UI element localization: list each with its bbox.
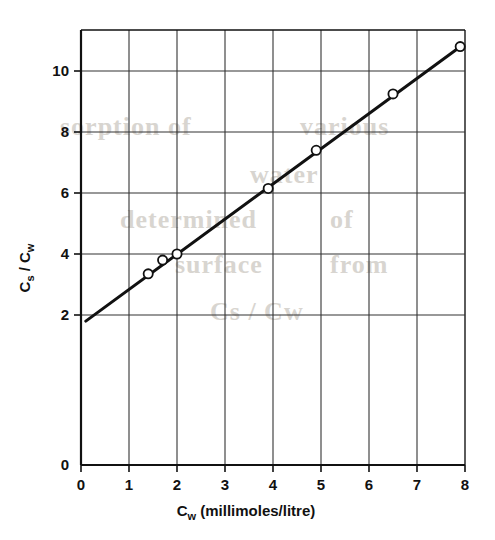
data-point-marker (264, 184, 273, 193)
scatter-chart: 012345678 2468100 Cw (millimoles/litre) … (0, 0, 495, 540)
svg-text:Cs / Cw: Cs / Cw (16, 243, 36, 292)
y-axis-title-denominator-subscript: w (24, 243, 36, 253)
data-point-marker (388, 89, 397, 98)
y-axis-tick-labels: 2468100 (52, 62, 69, 473)
y-tick-label: 8 (61, 123, 69, 140)
x-tick-label: 4 (269, 476, 278, 493)
x-tick-label: 0 (77, 476, 85, 493)
y-tick-label: 4 (61, 245, 70, 262)
regression-line (86, 45, 463, 321)
x-tick-label: 8 (461, 476, 469, 493)
fit-line (86, 45, 463, 321)
x-tick-label: 6 (365, 476, 373, 493)
x-axis-title-symbol: C (177, 502, 188, 519)
x-tick-label: 5 (317, 476, 325, 493)
figure-container: sorption ofvariouswaterdeterminedofsurfa… (0, 0, 495, 540)
y-axis-title-separator: / (16, 263, 33, 276)
y-tick-label: 2 (61, 306, 69, 323)
y-axis-title-denominator: C (16, 252, 33, 263)
svg-text:Cw (millimoles/litre): Cw (millimoles/litre) (177, 502, 316, 522)
x-tick-label: 7 (413, 476, 421, 493)
x-axis-tick-labels: 012345678 (77, 476, 469, 493)
grid-lines (81, 30, 465, 465)
x-tick-label: 1 (125, 476, 133, 493)
data-point-marker (456, 42, 465, 51)
x-axis-title: Cw (millimoles/litre) (177, 502, 316, 522)
tick-marks (74, 71, 465, 472)
y-tick-label: 6 (61, 184, 69, 201)
y-tick-label: 10 (52, 62, 69, 79)
y-axis-title: Cs / Cw (16, 243, 36, 292)
y-tick-label-zero: 0 (61, 456, 69, 473)
data-point-marker (158, 256, 167, 265)
x-axis-title-subscript: w (187, 510, 197, 522)
x-tick-label: 3 (221, 476, 229, 493)
x-tick-label: 2 (173, 476, 181, 493)
y-axis-title-numerator: C (16, 281, 33, 292)
data-point-marker (312, 146, 321, 155)
data-point-marker (172, 249, 181, 258)
x-axis-title-units: (millimoles/litre) (196, 502, 315, 519)
data-point-marker (144, 269, 153, 278)
